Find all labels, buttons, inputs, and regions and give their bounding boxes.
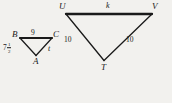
vertex-label-c: C: [53, 30, 59, 39]
side-label-uv: k: [106, 2, 110, 10]
vertex-label-t: T: [101, 63, 106, 72]
vertex-label-b: B: [12, 30, 18, 39]
side-label-ut: 10: [64, 36, 72, 44]
figure-canvas: [0, 0, 172, 103]
vertex-label-u: U: [59, 2, 66, 11]
side-label-ab: 7 1 2: [3, 42, 11, 54]
triangle-utv-shape: [66, 14, 152, 61]
segment-ba: [20, 38, 36, 56]
side-label-ca: t: [48, 45, 50, 53]
fraction-numerator: 1: [8, 42, 12, 47]
fraction-one-half: 1 2: [7, 42, 11, 54]
vertex-label-v: V: [152, 2, 158, 11]
fraction-denominator: 2: [8, 49, 12, 54]
vertex-label-a: A: [33, 57, 39, 66]
side-label-tv: 10: [126, 36, 134, 44]
mixed-whole: 7: [3, 44, 7, 52]
geometry-figure: B C A 9 t 7 1 2 U V T k 10 10: [0, 0, 172, 103]
side-label-bc: 9: [31, 29, 35, 37]
